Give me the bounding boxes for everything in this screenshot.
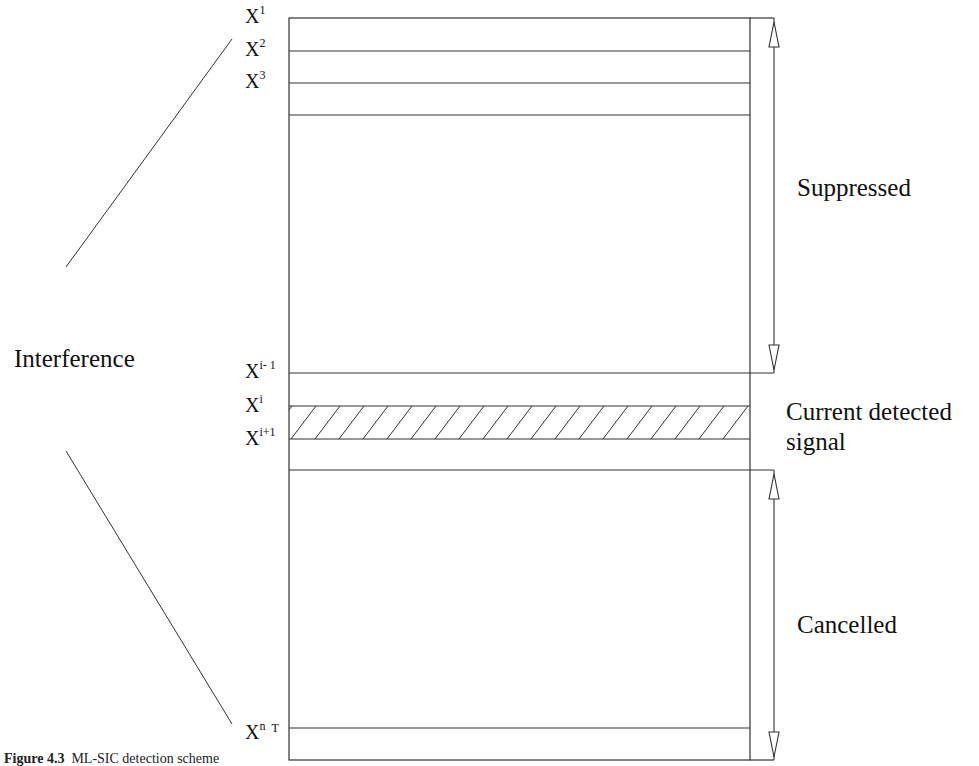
cancelled-label: Cancelled [797,612,897,637]
figure-caption: Figure 4.3 ML-SIC detection scheme [4,751,219,766]
row-label-xi-plus-1: Xi+1 [245,428,276,448]
current-detected-label-line2: signal [786,429,846,454]
signal-stack-box [289,18,750,760]
suppressed-label: Suppressed [797,175,911,200]
row-label-xi-minus-1: Xi- 1 [245,361,276,381]
row-divider-lines [289,18,774,760]
figure-number: Figure 4.3 [4,751,64,766]
row-label-x3: X3 [245,71,265,91]
row-label-x1: X1 [245,6,265,26]
current-detected-label-line1: Current detected [786,399,952,424]
cancelled-range-arrow [769,470,779,760]
row-label-x2: X2 [245,39,265,59]
interference-label: Interference [14,346,135,371]
suppressed-range-arrow [769,18,779,373]
sic-diagram [0,0,979,766]
figure-caption-text: ML-SIC detection scheme [71,751,219,766]
row-label-xi: Xi [245,395,263,415]
interference-connector-lines [66,39,232,724]
current-signal-hatch [267,406,748,439]
row-label-xn: XnT [245,722,279,742]
